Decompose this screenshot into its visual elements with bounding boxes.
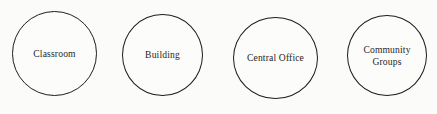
node-circle-central-office[interactable]: Central Office	[233, 17, 318, 99]
node-circle-classroom[interactable]: Classroom	[12, 11, 97, 96]
node-label: Central Office	[243, 52, 308, 64]
diagram-canvas: Classroom Building Central Office Commun…	[0, 0, 437, 114]
node-circle-community-groups[interactable]: Community Groups	[347, 15, 427, 96]
node-label: Community Groups	[359, 44, 414, 67]
node-circle-building[interactable]: Building	[122, 14, 203, 96]
node-label: Building	[141, 49, 184, 61]
node-label: Classroom	[29, 48, 79, 60]
